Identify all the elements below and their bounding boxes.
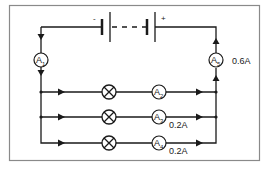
- junction-dot: [214, 115, 217, 118]
- ammeter-a1: A 1: [34, 53, 48, 67]
- arrow-right-icon: [196, 114, 203, 121]
- battery-negative-label: -: [93, 14, 96, 23]
- lamp-3: [102, 136, 116, 150]
- arrow-up-icon: [213, 75, 220, 81]
- arrow-right-icon: [58, 89, 65, 96]
- lamp-2: [102, 110, 116, 124]
- ammeter-a3-reading: 0.2A: [169, 120, 188, 130]
- battery-positive-label: +: [161, 14, 166, 23]
- arrow-right-icon: [58, 140, 65, 147]
- arrow-right-icon: [196, 89, 203, 96]
- arrow-down-icon: [38, 34, 45, 40]
- branch-1: A 2: [39, 85, 217, 99]
- ammeter-a3: A 3: [152, 110, 166, 124]
- arrow-right-icon: [196, 140, 203, 147]
- junction-dot: [39, 115, 42, 118]
- ammeter-a5: A 5: [209, 53, 223, 67]
- ammeter-a2: A 2: [152, 85, 166, 99]
- ammeter-a4-reading: 0.2A: [169, 146, 188, 156]
- arrow-right-icon: [58, 114, 65, 121]
- circuit-diagram: - + A 1 A 5 0.6A A 2: [0, 0, 270, 171]
- diagram-frame: [10, 6, 260, 161]
- arrow-down-icon: [38, 70, 45, 76]
- top-wire-right: [155, 27, 216, 53]
- left-bus-wire: [41, 27, 60, 143]
- right-bus-wire: [60, 68, 216, 143]
- lamp-1: [102, 85, 116, 99]
- branch-3: A 4 0.2A: [58, 136, 203, 156]
- branch-2: A 3 0.2A: [39, 110, 217, 130]
- junction-dot: [214, 90, 217, 93]
- junction-dot: [39, 90, 42, 93]
- ammeter-a5-reading: 0.6A: [232, 56, 251, 66]
- ammeter-a4: A 4: [152, 136, 166, 150]
- arrow-up-icon: [213, 38, 220, 44]
